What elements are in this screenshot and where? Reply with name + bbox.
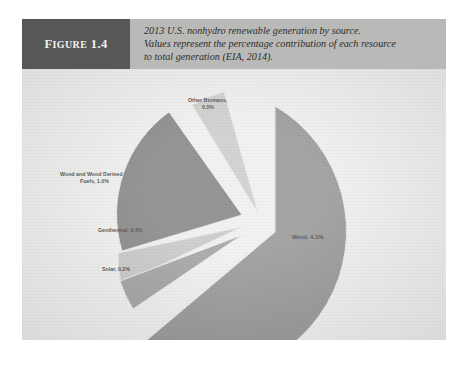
figure-number-text: FIGURE 1.4 [44, 37, 107, 52]
caption-line-3: to total generation (EIA, 2014). [144, 50, 436, 63]
page-margin-left [0, 0, 22, 371]
figure-caption-band: FIGURE 1.4 2013 U.S. nonhydro renewable … [22, 19, 446, 69]
page-margin-top [0, 0, 468, 19]
pie-label-geothermal: Geothermal, 0.4% [98, 227, 143, 233]
pie-chart: Wind, 4.1% Wood and Wood Derived Fuels, … [22, 69, 446, 340]
pie-label-wood-line2: Fuels, 1.0% [80, 178, 109, 184]
caption-line-2: Values represent the percentage contribu… [144, 37, 436, 50]
figure-image-area: Wind, 4.1% Wood and Wood Derived Fuels, … [22, 69, 446, 340]
figure-caption-text: 2013 U.S. nonhydro renewable generation … [130, 19, 446, 69]
pie-label-solar: Solar, 0.2% [102, 266, 130, 272]
figure-page: FIGURE 1.4 2013 U.S. nonhydro renewable … [0, 0, 468, 371]
pie-label-other-biomass-line2: 0.5% [202, 104, 214, 110]
caption-line-1: 2013 U.S. nonhydro renewable generation … [144, 24, 436, 37]
figure-number-tag: FIGURE 1.4 [22, 19, 130, 69]
pie-label-wind: Wind, 4.1% [292, 234, 324, 240]
figure-tag-number: 1.4 [91, 37, 108, 51]
pie-label-other-biomass-line1: Other Biomass, [188, 97, 228, 103]
page-margin-bottom [0, 340, 468, 371]
pie-label-wood-line1: Wood and Wood Derived [60, 171, 122, 177]
figure-tag-small: IGURE [52, 39, 87, 50]
page-margin-right [446, 0, 468, 371]
